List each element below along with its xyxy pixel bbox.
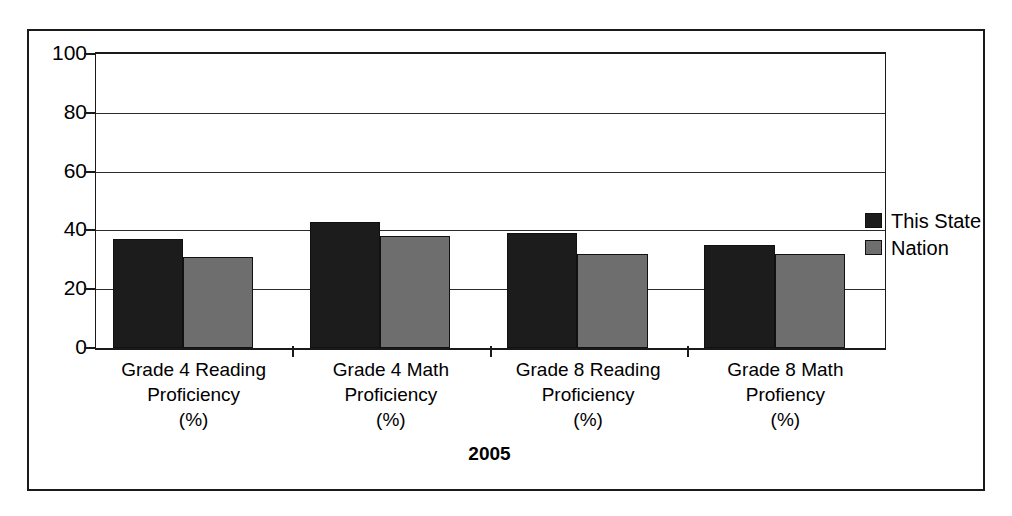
y-tick-mark — [84, 288, 96, 290]
bar-nation-2 — [380, 236, 450, 348]
category-label-line: Proficiency — [292, 382, 489, 407]
bar-this-state-2 — [310, 222, 380, 348]
category-label-line: Grade 8 Reading — [490, 357, 687, 382]
y-tick-label: 0 — [41, 336, 87, 357]
category-label-line: Grade 4 Math — [292, 357, 489, 382]
x-tick-mark — [687, 346, 689, 357]
legend-label: Nation — [891, 238, 949, 258]
bar-this-state-4 — [704, 245, 774, 348]
y-tick-label: 80 — [41, 100, 87, 121]
bar-nation-1 — [183, 257, 253, 348]
black-square-swatch-icon — [865, 213, 882, 228]
y-tick-mark — [84, 171, 96, 173]
category-label-grade-8-reading: Grade 8 Reading Proficiency (%) — [490, 357, 687, 443]
bar-this-state-1 — [113, 239, 183, 348]
gridline — [96, 113, 885, 114]
legend-label: This State — [891, 211, 981, 231]
y-tick-label: 100 — [41, 42, 87, 63]
y-tick-label: 20 — [41, 277, 87, 298]
legend-item-nation[interactable]: Nation — [865, 234, 985, 261]
bar-nation-4 — [775, 254, 845, 348]
y-axis: 100 80 60 40 20 0 — [29, 52, 87, 346]
x-axis-title: 2005 — [95, 443, 884, 465]
plot-area — [95, 52, 886, 350]
y-tick-label: 60 — [41, 159, 87, 180]
chart-legend: This State Nation — [865, 207, 985, 261]
category-label-line: (%) — [687, 407, 884, 432]
category-label-line: (%) — [490, 407, 687, 432]
category-label-grade-4-math: Grade 4 Math Proficiency (%) — [292, 357, 489, 443]
x-axis-category-labels: Grade 4 Reading Proficiency (%) Grade 4 … — [95, 357, 884, 443]
y-tick-mark — [84, 112, 96, 114]
x-tick-mark — [490, 346, 492, 357]
category-label-grade-8-math: Grade 8 Math Profiency (%) — [687, 357, 884, 443]
gridline — [96, 230, 885, 231]
bar-nation-3 — [577, 254, 647, 348]
x-tick-mark — [292, 346, 294, 357]
chart-frame: 100 80 60 40 20 0 Grade 4 Reading Profic… — [27, 29, 985, 491]
category-label-line: (%) — [95, 407, 292, 432]
gridline — [96, 172, 885, 173]
category-label-line: Proficiency — [95, 382, 292, 407]
gray-square-swatch-icon — [865, 240, 882, 255]
y-tick-mark — [84, 229, 96, 231]
category-label-grade-4-reading: Grade 4 Reading Proficiency (%) — [95, 357, 292, 443]
category-label-line: Proficiency — [490, 382, 687, 407]
category-label-line: Grade 4 Reading — [95, 357, 292, 382]
category-label-line: (%) — [292, 407, 489, 432]
category-label-line: Profiency — [687, 382, 884, 407]
bar-this-state-3 — [507, 233, 577, 348]
legend-item-this-state[interactable]: This State — [865, 207, 985, 234]
category-label-line: Grade 8 Math — [687, 357, 884, 382]
y-tick-mark — [84, 53, 96, 55]
y-tick-label: 40 — [41, 218, 87, 239]
